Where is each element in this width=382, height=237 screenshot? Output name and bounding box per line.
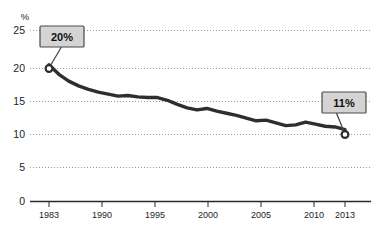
y-tick-label-20: 20 — [13, 62, 25, 74]
annotation-start: 20% — [40, 26, 84, 72]
x-tick-label-2000: 2000 — [198, 210, 218, 220]
x-tick-label-1990: 1990 — [92, 210, 112, 220]
chart-canvas: % 25 20 15 10 5 0 1983 1990 1995 2000 20… — [0, 0, 382, 237]
gridlines — [30, 31, 371, 168]
y-axis-unit-label: % — [21, 11, 30, 22]
data-series-line — [49, 65, 345, 130]
line-chart: % 25 20 15 10 5 0 1983 1990 1995 2000 20… — [0, 0, 382, 237]
data-point-marker-start — [46, 65, 53, 72]
x-tick-label-2010: 2010 — [304, 210, 324, 220]
y-tick-label-5: 5 — [19, 161, 25, 173]
y-tick-label-15: 15 — [13, 95, 25, 107]
x-axis-labels: 1983 1990 1995 2000 2005 2010 2013 — [39, 210, 355, 220]
x-tick-label-2005: 2005 — [251, 210, 271, 220]
y-tick-label-10: 10 — [13, 128, 25, 140]
y-tick-label-0: 0 — [19, 195, 25, 207]
x-tick-label-2013: 2013 — [335, 210, 355, 220]
x-tick-label-1983: 1983 — [39, 210, 59, 220]
callout-label-end: 11% — [333, 97, 355, 109]
annotation-end: 11% — [322, 92, 366, 138]
y-axis-labels: % 25 20 15 10 5 0 — [13, 11, 29, 207]
data-point-marker-end — [342, 131, 349, 138]
callout-label-start: 20% — [51, 31, 73, 43]
y-tick-label-25: 25 — [13, 24, 25, 36]
x-axis-ticks — [49, 202, 345, 208]
x-tick-label-1995: 1995 — [145, 210, 165, 220]
